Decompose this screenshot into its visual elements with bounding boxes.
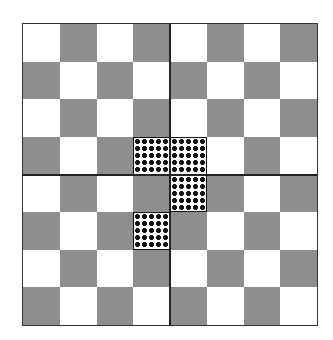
board-cell — [23, 137, 60, 175]
board-cell — [280, 62, 317, 100]
board-cell — [23, 99, 60, 137]
board-cell — [97, 287, 134, 325]
board-cell — [170, 250, 207, 288]
board-cell — [244, 287, 281, 325]
board-cell — [207, 287, 244, 325]
board-cell — [170, 212, 207, 250]
board-cell — [133, 250, 170, 288]
board-cell — [60, 287, 97, 325]
board-cell — [97, 24, 134, 62]
checkerboard — [22, 23, 318, 326]
board-cell — [60, 137, 97, 175]
board-cell — [60, 24, 97, 62]
board-cell — [23, 287, 60, 325]
board-cell — [170, 287, 207, 325]
board-cell — [244, 250, 281, 288]
board-cell — [244, 99, 281, 137]
board-cell — [207, 24, 244, 62]
board-cell — [97, 250, 134, 288]
board-cell — [133, 175, 170, 213]
dotted-board-cell — [170, 137, 207, 175]
board-cell — [133, 24, 170, 62]
board-cell — [60, 99, 97, 137]
board-cell — [60, 250, 97, 288]
board-cell — [97, 137, 134, 175]
board-cell — [170, 62, 207, 100]
board-cell — [207, 250, 244, 288]
board-cell — [207, 99, 244, 137]
board-cell — [280, 287, 317, 325]
board-cell — [97, 212, 134, 250]
board-cell — [170, 24, 207, 62]
board-cell — [207, 62, 244, 100]
dotted-board-cell — [133, 137, 170, 175]
board-cell — [207, 175, 244, 213]
dotted-board-cell — [170, 175, 207, 213]
board-cell — [244, 62, 281, 100]
board-cell — [280, 250, 317, 288]
board-cell — [133, 99, 170, 137]
board-cell — [207, 212, 244, 250]
board-cell — [280, 175, 317, 213]
board-cell — [97, 99, 134, 137]
board-cell — [60, 62, 97, 100]
dotted-board-cell — [133, 212, 170, 250]
board-cell — [97, 175, 134, 213]
board-cell — [170, 99, 207, 137]
board-cell — [23, 62, 60, 100]
board-cell — [207, 137, 244, 175]
board-cell — [133, 62, 170, 100]
board-cell — [280, 99, 317, 137]
board-cell — [244, 137, 281, 175]
board-cell — [244, 175, 281, 213]
board-cell — [280, 24, 317, 62]
board-cell — [23, 212, 60, 250]
board-cell — [97, 62, 134, 100]
board-cell — [244, 24, 281, 62]
board-cell — [280, 212, 317, 250]
board-cell — [23, 175, 60, 213]
board-cell — [60, 212, 97, 250]
horizontal-quadrant-divider — [23, 174, 317, 176]
board-cell — [23, 250, 60, 288]
board-cell — [244, 212, 281, 250]
board-cell — [60, 175, 97, 213]
board-cell — [133, 287, 170, 325]
board-cell — [23, 24, 60, 62]
board-cell — [280, 137, 317, 175]
